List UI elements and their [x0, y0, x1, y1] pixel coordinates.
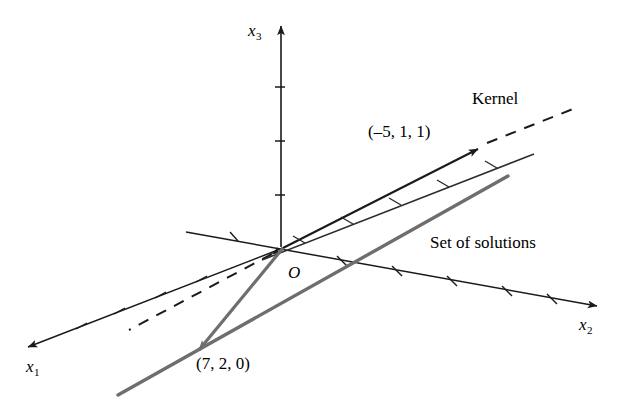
- kernel-dashed-lower: [129, 254, 272, 330]
- hatched-line-barb-3: [389, 198, 401, 205]
- axis-label-x2: x2: [579, 316, 592, 333]
- hatched-line-lower: [18, 260, 262, 355]
- kernel-line: [129, 107, 578, 330]
- kernel-vector-label: (–5, 1, 1): [368, 123, 430, 140]
- hatched-line-barb-5: [485, 161, 497, 168]
- solution-vector: [199, 248, 283, 350]
- axis-x1-hatch-3: [114, 308, 125, 314]
- kernel-dashed-upper: [487, 107, 578, 143]
- hatched-line-barb-2: [341, 217, 353, 224]
- solution-line: [118, 176, 508, 395]
- kernel-annotation: Kernel: [472, 90, 518, 107]
- vector-space-diagram: x3 x2 x1 O Kernel Set of solutions (–5, …: [0, 0, 618, 409]
- axis-x1-hatch-1: [196, 276, 207, 282]
- diagram-canvas: [0, 0, 618, 409]
- set-of-solutions-annotation: Set of solutions: [430, 234, 536, 251]
- solution-vector-arrow: [199, 248, 283, 350]
- axis-x3: [275, 26, 285, 247]
- axis-label-x3: x3: [248, 22, 261, 39]
- origin-label: O: [288, 264, 300, 281]
- solution-line-stroke: [118, 176, 508, 395]
- axis-x1-hatch-2: [155, 292, 166, 298]
- axis-x1: [28, 248, 283, 347]
- axis-x1-hatch-4: [76, 323, 87, 329]
- solution-vector-label: (7, 2, 0): [196, 355, 250, 372]
- hatched-line-barb-4: [437, 180, 449, 187]
- axis-label-x1: x1: [26, 358, 39, 375]
